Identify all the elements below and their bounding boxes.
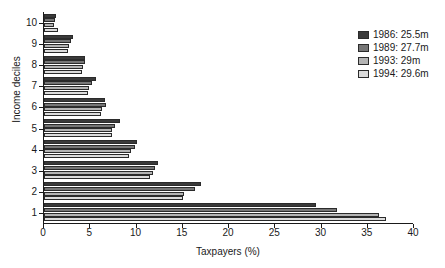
x-tick-label: 25	[259, 228, 289, 238]
bar	[44, 196, 183, 200]
bar	[44, 161, 158, 165]
legend-item[interactable]: 1993: 29m	[358, 54, 429, 67]
x-tick-label: 0	[28, 228, 58, 238]
y-tick-label: 3	[17, 166, 37, 176]
legend-label: 1989: 27.7m	[373, 43, 429, 53]
bar	[44, 70, 82, 74]
bar-group	[44, 181, 413, 202]
bar	[44, 112, 101, 116]
x-tick-label: 5	[74, 228, 104, 238]
bar	[44, 119, 120, 123]
bar	[44, 124, 115, 128]
y-tick-mark	[39, 65, 43, 66]
legend-item[interactable]: 1994: 29.6m	[358, 67, 429, 80]
legend-label: 1986: 25.5m	[373, 30, 429, 40]
x-tick-label: 20	[213, 228, 243, 238]
bar	[44, 182, 201, 186]
x-tick-label: 40	[398, 228, 428, 238]
bar-group	[44, 202, 413, 223]
bar	[44, 18, 55, 22]
bar-chart: 0510152025303540 12345678910 Taxpayers (…	[0, 0, 445, 268]
bar	[44, 77, 96, 81]
bar	[44, 98, 105, 102]
bar	[44, 44, 69, 48]
bar	[44, 187, 195, 191]
bar	[44, 49, 68, 53]
legend-label: 1994: 29.6m	[373, 69, 429, 79]
x-tick-label: 30	[306, 228, 336, 238]
bar	[44, 140, 137, 144]
bar	[44, 107, 102, 111]
y-tick-mark	[39, 213, 43, 214]
y-tick-mark	[39, 129, 43, 130]
y-tick-label: 10	[17, 18, 37, 28]
bar	[44, 166, 155, 170]
x-tick-label: 10	[121, 228, 151, 238]
legend-swatch	[358, 44, 369, 52]
bar	[44, 86, 89, 90]
bar	[44, 35, 73, 39]
legend-item[interactable]: 1989: 27.7m	[358, 41, 429, 54]
bar	[44, 149, 131, 153]
bar	[44, 28, 58, 32]
legend-swatch	[358, 57, 369, 65]
bar	[44, 171, 153, 175]
bar	[44, 128, 112, 132]
bar	[44, 203, 316, 207]
y-tick-mark	[39, 171, 43, 172]
bar	[44, 56, 85, 60]
x-tick-label: 15	[167, 228, 197, 238]
y-tick-label: 2	[17, 187, 37, 197]
bar	[44, 217, 386, 221]
legend-swatch	[358, 31, 369, 39]
bar	[44, 175, 150, 179]
bar	[44, 91, 88, 95]
bar-group	[44, 160, 413, 181]
bar	[44, 154, 129, 158]
y-tick-mark	[39, 107, 43, 108]
legend-swatch	[358, 70, 369, 78]
legend: 1986: 25.5m1989: 27.7m1993: 29m1994: 29.…	[358, 28, 429, 80]
bar	[44, 60, 85, 64]
bar	[44, 65, 83, 69]
bar	[44, 208, 337, 212]
bar	[44, 14, 56, 18]
y-tick-mark	[39, 23, 43, 24]
bar	[44, 81, 92, 85]
bar	[44, 39, 71, 43]
legend-label: 1993: 29m	[373, 56, 420, 66]
bar-group	[44, 117, 413, 138]
bar	[44, 133, 112, 137]
bar	[44, 23, 54, 27]
y-axis-title: Income deciles	[11, 30, 22, 150]
x-axis-title: Taxpayers (%)	[43, 246, 413, 257]
x-tick-label: 35	[352, 228, 382, 238]
y-tick-mark	[39, 86, 43, 87]
bar-group	[44, 96, 413, 117]
y-tick-mark	[39, 192, 43, 193]
bar	[44, 103, 106, 107]
y-tick-mark	[39, 150, 43, 151]
bar	[44, 145, 135, 149]
legend-item[interactable]: 1986: 25.5m	[358, 28, 429, 41]
bar-group	[44, 139, 413, 160]
bar	[44, 192, 184, 196]
y-tick-mark	[39, 44, 43, 45]
y-tick-label: 1	[17, 208, 37, 218]
bar	[44, 213, 379, 217]
